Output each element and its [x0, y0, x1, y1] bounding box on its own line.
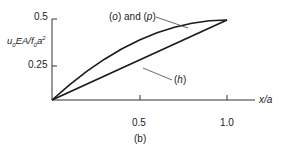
- ylabel-sup2: 2: [42, 35, 45, 41]
- figure-caption: (b): [134, 134, 146, 144]
- y-tick-label-0.25: 0.25: [28, 60, 47, 70]
- h-close: ): [183, 74, 186, 85]
- op-close: ): [152, 11, 155, 22]
- line-h: [52, 20, 227, 100]
- ylabel-mid: EA/f: [16, 35, 34, 46]
- label-h: (h): [174, 75, 186, 85]
- x-tick-label-1.0: 1.0: [220, 118, 234, 128]
- x-tick-label-0.5: 0.5: [132, 118, 146, 128]
- leader-o-and-p: [156, 17, 188, 28]
- leader-h: [143, 68, 172, 80]
- y-tick-label-0.5: 0.5: [34, 12, 48, 22]
- x-axis-label: x/a: [259, 95, 272, 105]
- label-o-and-p: (o) and (p): [109, 12, 156, 22]
- op-mid: ) and (: [118, 11, 147, 22]
- displacement-figure: 0.5 0.25 u0EA/f0a2 0.5 1.0 x/a (o) and (…: [0, 0, 283, 156]
- y-axis-label: u0EA/f0a2: [7, 33, 46, 50]
